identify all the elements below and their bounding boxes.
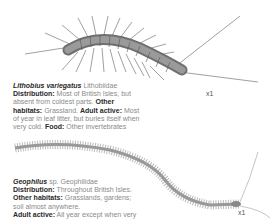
distribution-text: Throughout British Isles. bbox=[56, 186, 131, 193]
other-habitats-text: Grassland. bbox=[44, 107, 78, 114]
food-label: Food bbox=[45, 123, 62, 130]
scale-label: x1 bbox=[206, 90, 213, 97]
other-habitats-label: Other habitats bbox=[13, 194, 60, 201]
food-label: Food bbox=[30, 219, 47, 220]
lithobius-illustration bbox=[25, 16, 258, 82]
adult-active-label: Adult active bbox=[13, 211, 53, 218]
species-entry-lithobius: Lithobius variegatus Lithobiidae Distrib… bbox=[13, 82, 141, 131]
scientific-name: Geophilus bbox=[13, 178, 47, 185]
food-text: Other invertebrates bbox=[66, 123, 126, 130]
distribution-label: Distribution bbox=[13, 90, 52, 97]
scale-label: x1 bbox=[238, 209, 245, 216]
family-name: sp. Geophilidae bbox=[49, 178, 98, 185]
food-text: Other invertebrates bbox=[51, 219, 111, 220]
family-name: Lithobiidae bbox=[83, 82, 117, 89]
adult-active-label: Adult active bbox=[80, 107, 120, 114]
scientific-name: Lithobius variegatus bbox=[13, 82, 81, 89]
species-entry-geophilus: Geophilus sp. Geophilidae Distribution: … bbox=[13, 178, 141, 220]
distribution-label: Distribution bbox=[13, 186, 52, 193]
